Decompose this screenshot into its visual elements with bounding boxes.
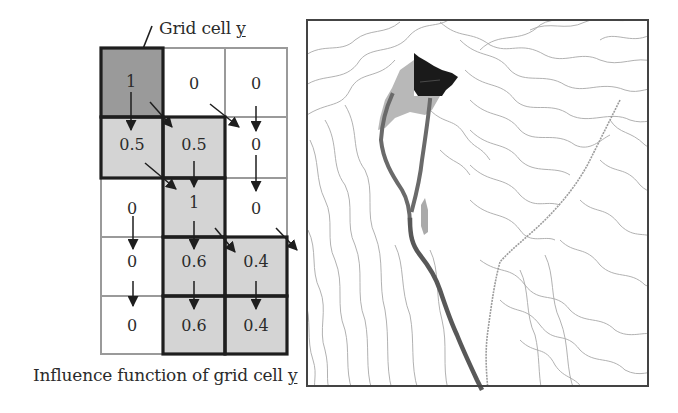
map-background bbox=[307, 20, 648, 386]
terrain-map bbox=[0, 0, 678, 413]
